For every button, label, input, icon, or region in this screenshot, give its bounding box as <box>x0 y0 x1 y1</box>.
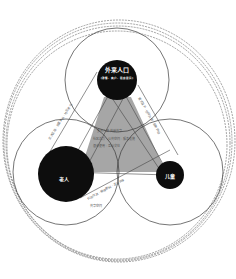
node-elderly-label: 老人 <box>58 176 70 183</box>
node-children-label: 儿童 <box>164 173 175 180</box>
node-elderly: 老人 <box>38 146 94 202</box>
venn-diagram: 多元人群 共融共享 社区活力 · 公共空间 · 服务设施 混合使用 · 互动交往… <box>0 0 236 279</box>
shared-zone-triangle <box>80 97 166 172</box>
center-text-2: 社区活力 · 公共空间 · 服务设施 <box>93 136 135 141</box>
node-migrants-sublabel: (游客、商户、租房居民) <box>101 76 133 80</box>
node-children: 儿童 <box>156 161 184 189</box>
diagram-canvas: 多元人群 共融共享 社区活力 · 公共空间 · 服务设施 混合使用 · 互动交往… <box>0 0 236 279</box>
node-migrants-label: 外来人口 <box>104 66 129 74</box>
node-migrants: 外来人口 (游客、商户、租房居民) <box>97 60 137 100</box>
bottom-edge-subannotation: 共享空间 <box>90 203 102 208</box>
